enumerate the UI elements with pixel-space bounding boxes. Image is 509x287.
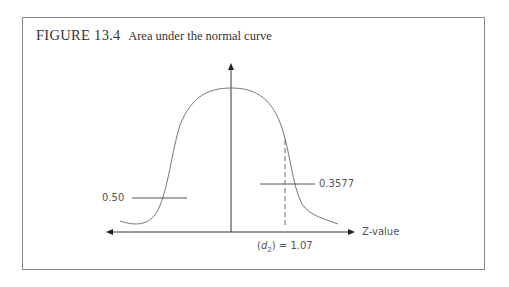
z-marker-sub: 2 [267,246,271,254]
right-area-label: 0.3577 [319,178,354,189]
normal-curve [120,88,338,224]
x-axis-right-arrow-icon [348,229,355,235]
x-axis-label: Z-value [362,226,399,237]
y-axis-arrow-icon [228,63,234,70]
left-area-label: 0.50 [102,192,124,203]
x-axis-left-arrow-icon [106,229,113,235]
z-marker-label: (d2) = 1.07 [257,240,313,254]
z-marker-value: = 1.07 [279,240,313,251]
normal-curve-diagram [0,0,509,287]
